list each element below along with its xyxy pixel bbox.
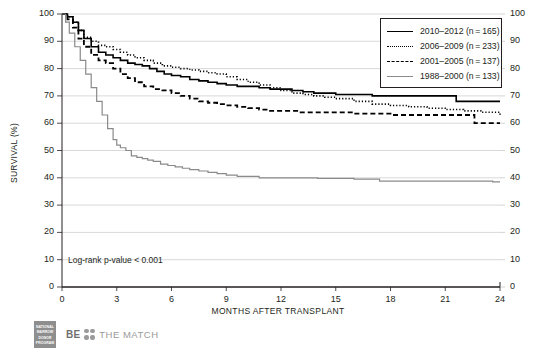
y-tick-label: 50 <box>28 146 54 155</box>
y-tick-label: 90 <box>510 36 540 45</box>
the-match-text: THE MATCH <box>99 329 158 340</box>
legend-line-dotted-icon <box>385 40 415 52</box>
x-tick-label: 0 <box>50 295 74 304</box>
y-tick-label: 20 <box>510 227 540 236</box>
y-tick-label: 80 <box>28 64 54 73</box>
legend-item: 1988–2000 (n = 133) <box>385 68 497 83</box>
y-tick-label: 100 <box>510 9 540 18</box>
legend-item-label: 2001–2005 (n = 137) <box>420 56 500 66</box>
x-tick-label: 18 <box>379 295 403 304</box>
footer-logos: NATIONAL MARROW DONOR PROGRAM BE THE MAT… <box>34 321 159 348</box>
y-tick-label: 50 <box>510 146 540 155</box>
y-tick-label: 80 <box>510 64 540 73</box>
four-dots-icon <box>84 329 95 340</box>
y-tick-label: 20 <box>28 227 54 236</box>
y-tick-label: 70 <box>28 91 54 100</box>
x-tick-label: 21 <box>433 295 457 304</box>
legend-item: 2006–2009 (n = 233) <box>385 38 497 53</box>
y-axis-title: SURVIVAL (%) <box>9 103 19 203</box>
legend-item: 2001–2005 (n = 137) <box>385 53 497 68</box>
survival-chart-figure: 0102030405060708090100 01020304050607080… <box>0 0 556 361</box>
y-tick-label: 60 <box>510 118 540 127</box>
y-tick-label: 0 <box>28 282 54 291</box>
y-tick-label: 30 <box>28 200 54 209</box>
be-the-match-logo: BE THE MATCH <box>66 329 159 340</box>
x-tick-label: 12 <box>269 295 293 304</box>
x-tick-label: 6 <box>160 295 184 304</box>
legend-line-dashed-icon <box>385 55 415 67</box>
x-tick-label: 9 <box>214 295 238 304</box>
nmdp-logo: NATIONAL MARROW DONOR PROGRAM <box>34 321 56 348</box>
y-tick-label: 100 <box>28 9 54 18</box>
x-axis-title: MONTHS AFTER TRANSPLANT <box>0 306 556 316</box>
legend-line-solid-icon <box>385 25 415 37</box>
y-tick-label: 40 <box>510 173 540 182</box>
y-tick-label: 60 <box>28 118 54 127</box>
y-tick-label: 10 <box>28 255 54 264</box>
y-tick-label: 90 <box>28 36 54 45</box>
x-tick-label: 15 <box>324 295 348 304</box>
x-tick-label: 3 <box>105 295 129 304</box>
logrank-annotation: Log-rank p-value < 0.001 <box>68 255 163 265</box>
y-tick-label: 40 <box>28 173 54 182</box>
legend-item: 2010–2012 (n = 165) <box>385 23 497 38</box>
y-tick-label: 70 <box>510 91 540 100</box>
y-tick-label: 0 <box>510 282 540 291</box>
x-tick-label: 24 <box>488 295 512 304</box>
y-tick-label: 10 <box>510 255 540 264</box>
y-tick-label: 30 <box>510 200 540 209</box>
be-text: BE <box>66 329 80 340</box>
legend-item-label: 2010–2012 (n = 165) <box>420 26 500 36</box>
legend-item-label: 1988–2000 (n = 133) <box>420 71 500 81</box>
legend-item-label: 2006–2009 (n = 233) <box>420 41 500 51</box>
legend-line-gray-icon <box>385 70 415 82</box>
nmdp-line: PROGRAM <box>34 341 56 346</box>
chart-legend: 2010–2012 (n = 165) 2006–2009 (n = 233) … <box>380 18 502 88</box>
